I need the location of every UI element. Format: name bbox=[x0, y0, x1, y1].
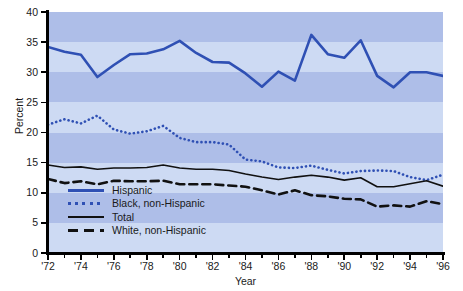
x-tick-label-1992: '92 bbox=[362, 261, 392, 272]
x-tick-label-1996: '96 bbox=[428, 261, 458, 272]
y-tick-30 bbox=[41, 71, 46, 73]
legend-swatch-icon bbox=[68, 229, 104, 232]
series-line-hispanic bbox=[48, 35, 443, 87]
legend-swatch-icon bbox=[68, 202, 104, 205]
x-tick-label-1990: '90 bbox=[329, 261, 359, 272]
x-tick-1980 bbox=[179, 253, 181, 260]
x-tick-label-1978: '78 bbox=[132, 261, 162, 272]
y-tick-label-15: 15 bbox=[12, 157, 38, 168]
x-tick-1979 bbox=[162, 253, 164, 258]
legend-label: Total bbox=[112, 211, 134, 224]
x-tick-1993 bbox=[393, 253, 395, 258]
x-tick-1995 bbox=[426, 253, 428, 258]
x-tick-1989 bbox=[327, 253, 329, 258]
x-tick-1976 bbox=[113, 253, 115, 260]
y-tick-40 bbox=[41, 11, 46, 13]
y-tick-5 bbox=[41, 222, 46, 224]
legend-item-total[interactable]: Total bbox=[68, 211, 253, 224]
x-tick-label-1986: '86 bbox=[263, 261, 293, 272]
x-tick-1975 bbox=[97, 253, 99, 258]
x-tick-1974 bbox=[80, 253, 82, 260]
y-tick-25 bbox=[41, 102, 46, 104]
x-tick-label-1988: '88 bbox=[296, 261, 326, 272]
y-tick-label-10: 10 bbox=[12, 187, 38, 198]
chart-legend: HispanicBlack, non-HispanicTotalWhite, n… bbox=[68, 184, 253, 238]
x-tick-label-1994: '94 bbox=[395, 261, 425, 272]
x-tick-1988 bbox=[311, 253, 313, 260]
x-tick-1994 bbox=[409, 253, 411, 260]
y-axis-label: Percent bbox=[13, 81, 25, 151]
y-tick-label-5: 5 bbox=[12, 217, 38, 228]
x-tick-label-1974: '74 bbox=[66, 261, 96, 272]
chart-figure: 0510152025303540 '72'74'76'78'80'82'84'8… bbox=[0, 0, 463, 291]
x-tick-1982 bbox=[212, 253, 214, 260]
x-tick-label-1980: '80 bbox=[165, 261, 195, 272]
x-tick-label-1972: '72 bbox=[33, 261, 63, 272]
x-tick-label-1982: '82 bbox=[198, 261, 228, 272]
y-axis-line bbox=[46, 10, 49, 255]
x-tick-1987 bbox=[294, 253, 296, 258]
legend-item-black-non-hispanic[interactable]: Black, non-Hispanic bbox=[68, 197, 253, 210]
y-tick-label-40: 40 bbox=[12, 7, 38, 18]
x-tick-1984 bbox=[245, 253, 247, 260]
y-tick-20 bbox=[41, 132, 46, 134]
legend-swatch-icon bbox=[68, 216, 104, 218]
x-tick-1983 bbox=[228, 253, 230, 258]
y-tick-35 bbox=[41, 41, 46, 43]
x-tick-1996 bbox=[442, 253, 444, 260]
y-tick-0 bbox=[41, 252, 46, 254]
legend-item-white-non-hispanic[interactable]: White, non-Hispanic bbox=[68, 224, 253, 237]
x-tick-1986 bbox=[278, 253, 280, 260]
legend-swatch-icon bbox=[68, 189, 104, 192]
y-tick-10 bbox=[41, 192, 46, 194]
x-tick-1978 bbox=[146, 253, 148, 260]
x-axis-label: Year bbox=[48, 275, 443, 287]
y-tick-label-35: 35 bbox=[12, 37, 38, 48]
x-tick-1972 bbox=[47, 253, 49, 260]
y-tick-15 bbox=[41, 162, 46, 164]
legend-label: Black, non-Hispanic bbox=[112, 197, 205, 210]
x-tick-1985 bbox=[261, 253, 263, 258]
x-tick-1992 bbox=[376, 253, 378, 260]
y-tick-label-0: 0 bbox=[12, 248, 38, 259]
x-tick-1991 bbox=[360, 253, 362, 258]
x-tick-label-1976: '76 bbox=[99, 261, 129, 272]
x-tick-label-1984: '84 bbox=[231, 261, 261, 272]
x-tick-1973 bbox=[64, 253, 66, 258]
legend-label: Hispanic bbox=[112, 184, 152, 197]
y-tick-label-30: 30 bbox=[12, 67, 38, 78]
legend-item-hispanic[interactable]: Hispanic bbox=[68, 184, 253, 197]
legend-label: White, non-Hispanic bbox=[112, 224, 206, 237]
x-tick-1990 bbox=[343, 253, 345, 260]
series-line-black-non-hispanic bbox=[48, 116, 443, 180]
x-tick-1981 bbox=[195, 253, 197, 258]
x-tick-1977 bbox=[129, 253, 131, 258]
